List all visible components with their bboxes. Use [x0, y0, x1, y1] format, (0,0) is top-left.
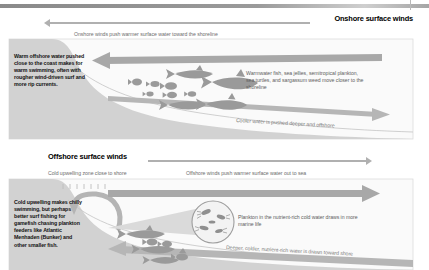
top-gradient-bar: [0, 4, 429, 8]
offshore-body-text: Cold upwelling makes chilly swimming, bu…: [14, 199, 86, 249]
offshore-side-text: Plankton in the nutrient-rich cold water…: [238, 214, 358, 228]
onshore-side-text: Warmwater fish, sea jellies, semitropica…: [246, 70, 366, 91]
top-bar-notch: [410, 0, 411, 10]
panel-onshore: Onshore surface winds Onshore winds push…: [0, 14, 429, 142]
onshore-body-text: Warm offshore water pushed close to the …: [14, 53, 86, 88]
panel-offshore: Offshore surface winds Cold upwelling zo…: [0, 152, 429, 270]
